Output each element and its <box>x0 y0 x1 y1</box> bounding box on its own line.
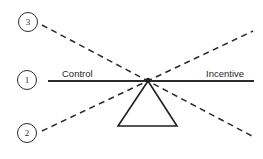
seesaw-diagram: 3 1 2 Control Incentive <box>0 0 263 159</box>
pivot-point <box>146 78 150 82</box>
beam-label-control: Control <box>62 69 93 79</box>
marker-label-3: 3 <box>26 18 31 27</box>
marker-circle-3: 3 <box>18 12 38 32</box>
marker-label-2: 2 <box>25 129 30 138</box>
marker-circle-1: 1 <box>17 70 37 90</box>
marker-label-1: 1 <box>25 76 30 85</box>
fulcrum-triangle <box>118 81 177 126</box>
beam-label-incentive: Incentive <box>206 69 244 79</box>
marker-circle-2: 2 <box>17 123 37 143</box>
diagram-canvas <box>0 0 263 159</box>
